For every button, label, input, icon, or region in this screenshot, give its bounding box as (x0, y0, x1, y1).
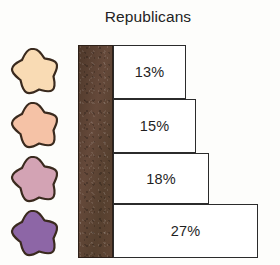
star-icon (8, 208, 60, 258)
bar-18: 18% (113, 153, 209, 204)
bar-value-label: 27% (171, 223, 201, 239)
legend-marker-star-salmon (2, 98, 66, 152)
star-icon (8, 100, 60, 150)
axis-baseline-column (78, 45, 113, 258)
chart-title: Republicans (78, 8, 218, 26)
legend-marker-star-rose (2, 152, 66, 206)
bar-15: 15% (113, 99, 196, 153)
star-icon (8, 46, 60, 96)
chart-figure: Republicans 13% 15% 18 (0, 0, 280, 265)
legend-marker-star-cream (2, 44, 66, 98)
bar-27: 27% (113, 204, 258, 258)
star-icon (8, 154, 60, 204)
marker-legend-column (2, 44, 66, 260)
bar-value-label: 15% (140, 118, 170, 134)
bar-value-label: 13% (135, 64, 165, 80)
bar-value-label: 18% (146, 171, 176, 187)
legend-marker-star-purple (2, 206, 66, 260)
bar-13: 13% (113, 45, 186, 99)
